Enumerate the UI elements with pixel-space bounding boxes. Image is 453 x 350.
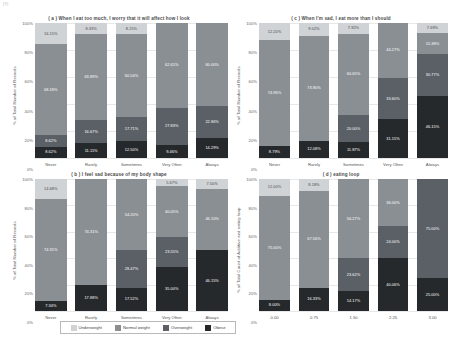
bar-segment-a-3-3[interactable]: 9.46% [156,145,188,158]
plot-area-d: 12.00%75.00%8.00%8.18%67.56%16.33%56.27%… [259,179,448,312]
bar-segment-a-0-1[interactable]: 68.18% [35,44,67,135]
bar-segment-b-3-3[interactable]: 35.00% [156,267,188,311]
bar-segment-a-1-0[interactable]: 8.33% [75,23,107,34]
bar-b-4[interactable]: 7.50%46.10%46.15% [196,179,228,311]
bar-segment-d-1-3[interactable]: 16.33% [299,288,330,311]
bar-segment-d-0-1[interactable]: 75.00% [259,196,290,300]
bar-b-0[interactable]: 14.68%74.31%7.34% [35,179,67,311]
bar-segment-c-2-3[interactable]: 11.87% [338,142,369,158]
bar-segment-b-3-1[interactable]: 40.05% [156,186,188,237]
bar-segment-d-3-1[interactable]: 36.00% [378,179,409,226]
x-axis-ticks-c: NeverRarelySometimesVery OftenAlways [259,159,448,169]
bar-segment-b-4-1[interactable]: 46.10% [196,189,228,250]
bar-segment-d-4-2[interactable]: 75.00% [417,179,448,278]
bar-segment-c-2-0[interactable]: 7.92% [338,23,369,34]
bar-segment-a-4-1[interactable]: 60.00% [196,23,228,106]
y-axis-ticks-d: 100%80%60%40%20%0% [242,179,259,322]
bar-segment-b-1-1[interactable]: 74.31% [75,179,107,285]
bar-d-0[interactable]: 12.00%75.00%8.00% [259,179,290,311]
y-axis-label-a: % of Total Number of Records [10,23,18,169]
bar-b-1[interactable]: 74.31%17.88% [75,179,107,311]
bar-a-4[interactable]: 60.00%22.86%14.29% [196,23,228,158]
x-tick-a-0: Never [35,162,67,167]
bar-segment-a-0-2[interactable]: 8.62% [35,135,67,146]
bar-segment-a-0-3[interactable]: 8.62% [35,147,67,158]
bar-a-0[interactable]: 16.15%68.18%8.62%8.62% [35,23,67,158]
bar-segment-b-4-3[interactable]: 46.15% [196,250,228,311]
bar-segment-c-4-0[interactable]: 7.69% [417,23,448,33]
bar-segment-c-4-1[interactable]: 15.38% [417,33,448,54]
bar-segment-c-2-1[interactable]: 60.65% [338,34,369,116]
bar-a-1[interactable]: 8.33%63.89%16.67%11.11% [75,23,107,158]
bar-segment-d-2-3[interactable]: 14.17% [338,291,369,311]
bar-segment-label: 14.68% [44,187,58,191]
legend-label: Overweight [171,325,192,330]
bar-segment-d-4-3[interactable]: 25.00% [417,278,448,311]
bar-segment-b-4-0[interactable]: 7.50% [196,179,228,189]
bar-segment-label: 46.15% [426,125,440,129]
bar-segment-a-2-3[interactable]: 12.50% [116,141,148,158]
bar-segment-a-2-0[interactable]: 8.25% [116,23,148,34]
bar-segment-b-0-1[interactable]: 74.31% [35,199,67,301]
bar-a-3[interactable]: 62.61%27.83%9.46% [156,23,188,158]
bar-c-3[interactable]: 44.27%33.60%31.15% [378,23,409,158]
bar-segment-b-2-2[interactable]: 28.47% [116,250,148,288]
bar-d-4[interactable]: 75.00%25.00% [417,179,448,311]
bar-c-0[interactable]: 12.20%74.96%8.79% [259,23,290,158]
bar-segment-c-1-3[interactable]: 12.08% [299,141,330,158]
bar-segment-a-2-1[interactable]: 60.54% [116,34,148,117]
legend-item-1[interactable]: Normal weight [115,325,150,331]
bar-segment-b-2-1[interactable]: 54.20% [116,179,148,250]
legend-item-2[interactable]: Overweight [163,325,192,331]
bar-segment-c-4-3[interactable]: 46.15% [417,96,448,158]
legend-item-0[interactable]: Underweight [71,325,103,331]
bar-segment-c-2-2[interactable]: 20.00% [338,115,369,142]
legend-item-3[interactable]: Obese [205,325,225,331]
bar-segment-a-0-0[interactable]: 16.15% [35,23,67,44]
bar-segment-d-1-1[interactable]: 67.56% [299,191,330,288]
bar-segment-c-0-1[interactable]: 74.96% [259,40,290,145]
bar-segment-b-2-3[interactable]: 17.52% [116,288,148,311]
bar-c-4[interactable]: 7.69%15.38%30.77%46.15% [417,23,448,158]
bar-segment-d-2-1[interactable]: 56.27% [338,179,369,258]
bar-segment-a-3-1[interactable]: 62.61% [156,23,188,108]
bar-segment-d-3-2[interactable]: 24.00% [378,226,409,258]
bar-segment-a-3-2[interactable]: 27.83% [156,108,188,146]
bar-segment-c-3-3[interactable]: 31.15% [378,119,409,158]
bar-segment-label: 16.33% [307,297,321,301]
bar-segment-d-1-0[interactable]: 8.18% [299,179,330,191]
bar-c-1[interactable]: 9.02%73.90%12.08% [299,23,330,158]
bar-segment-label: 62.61% [165,63,179,67]
bar-b-2[interactable]: 54.20%28.47%17.52% [116,179,148,311]
bar-segment-b-3-0[interactable]: 5.67% [156,179,188,186]
bar-d-2[interactable]: 56.27%23.62%14.17% [338,179,369,311]
bar-a-2[interactable]: 8.25%60.54%17.71%12.50% [116,23,148,158]
bar-segment-c-1-0[interactable]: 9.02% [299,23,330,36]
bar-segment-c-3-2[interactable]: 33.60% [378,78,409,120]
bar-segment-d-2-2[interactable]: 23.62% [338,258,369,291]
bar-segment-c-3-1[interactable]: 44.27% [378,23,409,78]
bar-b-3[interactable]: 5.67%40.05%23.55%35.00% [156,179,188,311]
bar-segment-c-0-3[interactable]: 8.79% [259,146,290,158]
bar-segment-d-3-3[interactable]: 40.06% [378,258,409,311]
bar-segment-a-4-2[interactable]: 22.86% [196,106,228,138]
bar-d-1[interactable]: 8.18%67.56%16.33% [299,179,330,311]
bar-segment-a-1-3[interactable]: 11.11% [75,143,107,158]
bar-segment-a-2-2[interactable]: 17.71% [116,117,148,141]
bar-segment-c-0-0[interactable]: 12.20% [259,23,290,40]
bar-c-2[interactable]: 7.92%60.65%20.00%11.87% [338,23,369,158]
bar-segment-b-0-0[interactable]: 14.68% [35,179,67,199]
bar-segment-label: 16.67% [84,130,98,134]
bar-segment-a-1-2[interactable]: 16.67% [75,120,107,143]
bar-segment-b-3-2[interactable]: 23.55% [156,237,188,267]
bar-segment-d-0-0[interactable]: 12.00% [259,179,290,196]
bar-segment-b-0-3[interactable]: 7.34% [35,301,67,311]
plot-area-a: 16.15%68.18%8.62%8.62%8.33%63.89%16.67%1… [35,23,228,159]
bar-segment-a-1-1[interactable]: 63.89% [75,34,107,120]
bar-segment-b-1-3[interactable]: 17.88% [75,285,107,311]
bar-segment-c-4-2[interactable]: 30.77% [417,54,448,96]
bar-segment-a-4-3[interactable]: 14.29% [196,138,228,158]
bar-d-3[interactable]: 36.00%24.00%40.06% [378,179,409,311]
bar-segment-d-0-3[interactable]: 8.00% [259,300,290,311]
bar-segment-c-1-1[interactable]: 73.90% [299,36,330,141]
